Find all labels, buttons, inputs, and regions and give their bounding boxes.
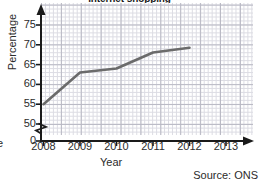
x-axis-title: Year — [100, 156, 122, 168]
y-tick-label: 55 — [12, 97, 36, 109]
clipped-text-fragment: e — [0, 137, 3, 149]
x-axis-tick-labels: 2008 2009 2010 2011 2012 2013 — [0, 140, 259, 156]
x-tick-label: 2013 — [204, 140, 248, 152]
y-tick-label: 50 — [12, 117, 36, 129]
data-line-series — [44, 48, 190, 104]
y-axis-title: Percentage — [6, 0, 18, 90]
source-note: Source: ONS — [193, 169, 258, 181]
chart-screenshot: Internet shopping — [0, 0, 259, 182]
